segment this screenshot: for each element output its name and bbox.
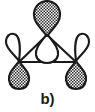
top-orbital-empty-lobe [36,34,58,63]
bottom-right-empty-lobe [75,34,89,61]
orbital-diagram-svg [0,0,95,92]
figure-caption: b) [0,89,95,109]
top-orbital-shaded-lobe [34,1,60,36]
bottom-right-shaded-lobe [66,61,86,89]
bottom-left-empty-lobe [6,34,20,61]
bottom-left-shaded-lobe [9,61,29,89]
top-orbital [34,1,60,63]
orbital-figure: b) [0,0,95,112]
